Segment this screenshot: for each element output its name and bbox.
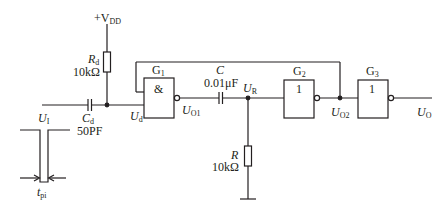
label-tpi: tpi: [37, 186, 47, 202]
label-ur: UR: [243, 82, 257, 98]
label-cd-value: 50PF: [77, 125, 102, 137]
label-rd-value: 10kΩ: [73, 66, 100, 78]
label-uo: UO: [417, 106, 431, 122]
label-c-symbol: C: [216, 64, 224, 76]
label-r-value: 10kΩ: [212, 161, 239, 173]
junction-uo2: [338, 96, 342, 100]
circuit-wiring: [0, 0, 444, 212]
label-g1: G1: [152, 64, 165, 80]
input-pulse-waveform: [20, 130, 70, 182]
label-ui: UI: [38, 112, 49, 128]
gate-g2-function: 1: [296, 83, 302, 95]
label-ud: Ud: [130, 110, 143, 126]
label-g2: G2: [293, 65, 306, 81]
label-vdd: +VDD: [94, 12, 121, 28]
label-uo2: UO2: [331, 106, 349, 122]
gate-g3-function: 1: [369, 83, 375, 95]
gate-g3-bubble: [388, 95, 393, 100]
label-uo1: UO1: [182, 104, 200, 120]
label-c-value: 0.01μF: [204, 77, 238, 89]
gate-g1-bubble: [174, 95, 179, 100]
resistor-r: [245, 146, 252, 166]
resistor-rd: [104, 52, 111, 72]
gate-g2-bubble: [314, 95, 319, 100]
gate-g1-function: &: [154, 83, 163, 95]
label-g3: G3: [366, 65, 379, 81]
